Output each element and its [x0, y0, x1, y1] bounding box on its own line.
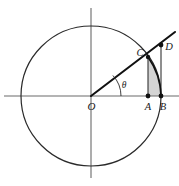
- geometry-figure: O θ A B C D: [0, 0, 179, 186]
- label-point-c: C: [136, 47, 144, 58]
- label-point-a: A: [144, 101, 152, 112]
- label-origin: O: [88, 100, 96, 112]
- label-angle-theta: θ: [122, 80, 127, 90]
- point-a-dot: [146, 94, 151, 99]
- label-point-d: D: [164, 41, 173, 52]
- point-b-dot: [159, 94, 164, 99]
- label-point-b: B: [160, 101, 167, 112]
- geometry-canvas: O θ A B C D: [0, 0, 179, 186]
- point-d-dot: [159, 43, 164, 48]
- terminal-ray: [91, 32, 175, 96]
- shaded-region: [148, 57, 161, 96]
- point-c-dot: [146, 55, 150, 59]
